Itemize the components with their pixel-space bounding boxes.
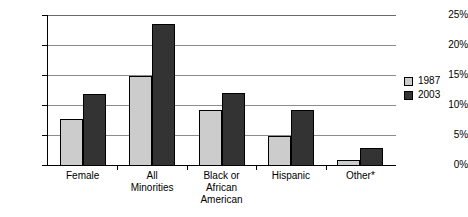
bar-1987[interactable] bbox=[199, 110, 222, 165]
legend-item[interactable]: 2003 bbox=[404, 88, 464, 102]
bar-2003[interactable] bbox=[291, 110, 314, 165]
y-tick-label: 25% bbox=[426, 10, 468, 20]
legend-item[interactable]: 1987 bbox=[404, 74, 464, 88]
legend-label: 1987 bbox=[418, 76, 440, 86]
y-tick-label: 20% bbox=[426, 40, 468, 50]
legend: 19872003 bbox=[404, 74, 464, 102]
legend-label: 2003 bbox=[418, 90, 440, 100]
bar-1987[interactable] bbox=[337, 160, 360, 165]
y-tick-label: 0% bbox=[426, 160, 468, 170]
bar-group bbox=[48, 15, 117, 165]
bar-1987[interactable] bbox=[268, 136, 291, 165]
bar-groups bbox=[48, 15, 395, 165]
bar-2003[interactable] bbox=[360, 148, 383, 165]
x-axis-label: Other* bbox=[326, 170, 395, 206]
legend-swatch bbox=[404, 77, 413, 86]
bar-2003[interactable] bbox=[222, 93, 245, 165]
bar-group bbox=[187, 15, 256, 165]
x-axis-labels: FemaleAll MinoritiesBlack or African Ame… bbox=[48, 170, 395, 206]
x-axis-label: All Minorities bbox=[117, 170, 186, 206]
bar-group bbox=[117, 15, 186, 165]
x-axis-label: Hispanic bbox=[256, 170, 325, 206]
bar-chart: 0%5%10%15%20%25% FemaleAll MinoritiesBla… bbox=[0, 0, 468, 217]
bar-1987[interactable] bbox=[60, 119, 83, 165]
x-axis-label: Female bbox=[48, 170, 117, 206]
y-tick-label: 5% bbox=[426, 130, 468, 140]
bar-group bbox=[256, 15, 325, 165]
legend-swatch bbox=[404, 91, 413, 100]
bar-group bbox=[326, 15, 395, 165]
bar-2003[interactable] bbox=[152, 24, 175, 165]
bar-2003[interactable] bbox=[83, 94, 106, 165]
bar-1987[interactable] bbox=[129, 76, 152, 165]
x-axis-label: Black or African American bbox=[187, 170, 256, 206]
